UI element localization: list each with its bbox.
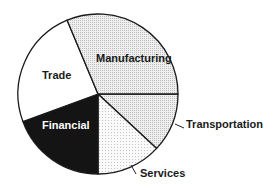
pie-chart: Manufacturing Trade Financial Transporta… <box>0 0 263 190</box>
label-transportation: Transportation <box>186 118 263 130</box>
label-financial: Financial <box>42 119 90 131</box>
label-manufacturing: Manufacturing <box>96 52 172 64</box>
pie-slices <box>18 14 178 174</box>
label-trade: Trade <box>42 69 71 81</box>
label-services: Services <box>140 167 185 179</box>
transportation-leader-line <box>175 124 184 128</box>
